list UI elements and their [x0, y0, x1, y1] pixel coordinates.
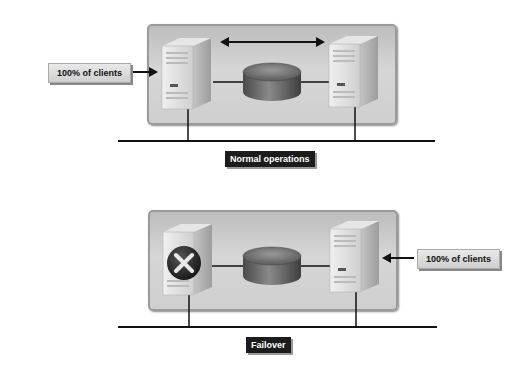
x-circle-icon	[167, 246, 201, 280]
server-right-icon	[330, 221, 379, 292]
client-arrow-icon	[382, 253, 414, 263]
client-label-failover: 100% of clients	[417, 249, 500, 269]
caption-failover: Failover	[246, 337, 291, 353]
network-line-failover	[118, 326, 437, 328]
failover-diagram-graphics	[0, 0, 518, 367]
shared-storage-disk-icon	[243, 247, 301, 285]
